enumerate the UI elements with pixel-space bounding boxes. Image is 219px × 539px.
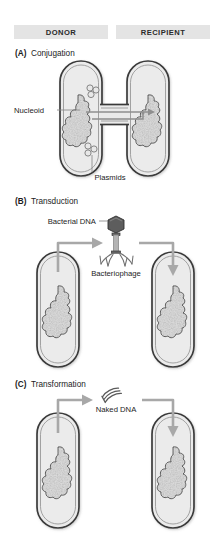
nucleoid-label: Nucleoid: [14, 106, 44, 115]
section-a-name: Conjugation: [31, 49, 75, 58]
plasmid-ring: [85, 150, 91, 156]
plasmids-label: Plasmids: [94, 173, 125, 182]
phage-head: [108, 216, 124, 233]
plasmid-ring: [88, 91, 94, 97]
conjugation-bridge: [100, 104, 129, 125]
recipient-header-label: RECIPIENT: [141, 28, 186, 37]
bacterial-dna-label: Bacterial DNA: [48, 217, 97, 226]
section-b-name: Transduction: [31, 197, 78, 206]
gene-transfer-diagram: DONOR RECIPIENT (A) Conjugation: [0, 0, 219, 539]
bridge-fill: [100, 104, 129, 125]
donor-header-label: DONOR: [46, 28, 77, 37]
diagram-canvas: DONOR RECIPIENT (A) Conjugation: [0, 0, 219, 539]
section-a-tag: (A): [15, 49, 27, 58]
plasmid-ring: [87, 85, 93, 91]
naked-dna-label: Naked DNA: [96, 405, 137, 414]
plasmid-ring: [93, 87, 99, 93]
section-c-name: Transformation: [31, 380, 86, 389]
phage-tail-tube: [114, 235, 119, 252]
section-b-tag: (B): [15, 197, 27, 206]
section-c-tag: (C): [15, 380, 27, 389]
bacteriophage-label: Bacteriophage: [91, 269, 141, 278]
transfer-arrow-dot: [142, 112, 145, 115]
plasmid-ring: [91, 146, 97, 152]
plasmid-ring: [85, 143, 91, 149]
